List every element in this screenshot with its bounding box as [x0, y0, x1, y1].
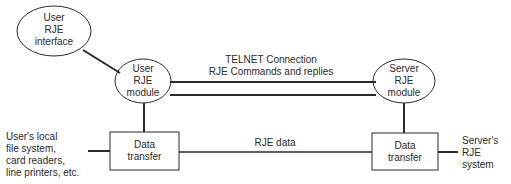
telnet-line-2: RJE Commands and replies — [196, 66, 346, 78]
server-data-transfer-line-1: Data — [372, 140, 438, 152]
server-rje-module-line-1: Server — [376, 63, 432, 75]
user-rje-interface-label: User RJE interface — [24, 12, 84, 48]
user-data-transfer-line-1: Data — [110, 139, 179, 151]
server-data-transfer-line-2: transfer — [372, 152, 438, 164]
rje-data-label: RJE data — [240, 137, 310, 149]
user-local-line-2: file system, — [6, 143, 90, 155]
server-system-line-3: system — [462, 159, 510, 171]
server-system-line-1: Server's — [462, 135, 510, 147]
server-rje-module-line-3: module — [376, 87, 432, 99]
user-rje-module-line-2: RJE — [118, 75, 168, 87]
rje-diagram: User RJE interface User RJE module Serve… — [0, 0, 511, 184]
telnet-line-1: TELNET Connection — [196, 54, 346, 66]
server-rje-module-label: Server RJE module — [376, 63, 432, 99]
server-data-transfer-label: Data transfer — [372, 140, 438, 164]
user-local-system-label: User's local file system, card readers, … — [6, 131, 90, 179]
user-local-line-3: card readers, — [6, 155, 90, 167]
interface-to-module-line — [83, 50, 120, 73]
user-rje-module-line-1: User — [118, 63, 168, 75]
server-rje-system-label: Server's RJE system — [462, 135, 510, 171]
user-rje-interface-line-3: interface — [24, 36, 84, 48]
server-system-line-2: RJE — [462, 147, 510, 159]
user-local-line-4: line printers, etc. — [6, 167, 90, 179]
user-rje-module-line-3: module — [118, 87, 168, 99]
server-rje-module-line-2: RJE — [376, 75, 432, 87]
user-rje-interface-line-1: User — [24, 12, 84, 24]
user-rje-module-label: User RJE module — [118, 63, 168, 99]
telnet-connection-label: TELNET Connection RJE Commands and repli… — [196, 54, 346, 78]
user-data-transfer-label: Data transfer — [110, 139, 179, 163]
user-rje-interface-line-2: RJE — [24, 24, 84, 36]
user-data-transfer-line-2: transfer — [110, 151, 179, 163]
user-local-line-1: User's local — [6, 131, 90, 143]
